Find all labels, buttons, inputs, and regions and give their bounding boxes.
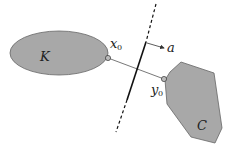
point-x0-subscript: 0 [117,43,122,52]
set-k-ellipse [10,31,108,75]
set-c-label: C [197,118,207,133]
hyperplane-dashed-bottom [116,100,127,132]
normal-vector-label: a [167,40,175,55]
set-c-polygon [165,62,222,143]
point-x0-marker [105,55,110,60]
point-y0-marker [161,76,166,81]
normal-vector-arrow [147,43,164,48]
separating-hyperplane-diagram: K C a x 0 y 0 [0,0,236,149]
distance-segment [108,58,164,79]
point-y0-subscript: 0 [158,89,163,98]
set-k-label: K [39,49,51,64]
hyperplane-dashed-top [146,4,156,42]
